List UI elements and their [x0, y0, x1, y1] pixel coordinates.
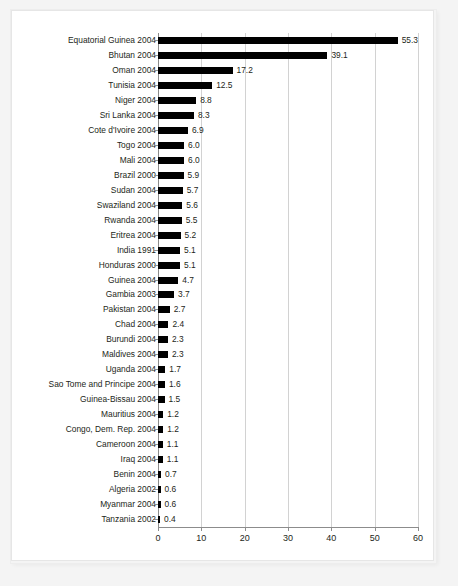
category-label: Sudan 2004: [0, 183, 156, 198]
x-axis-tick-label: 60: [403, 532, 433, 544]
bar[interactable]: [158, 456, 163, 463]
bar[interactable]: [158, 37, 398, 44]
bar-row[interactable]: Tanzania 20020.4: [0, 512, 458, 527]
bar-row[interactable]: Maldives 20042.3: [0, 347, 458, 362]
bar-value-label: 12.5: [216, 78, 232, 93]
x-tick-mark-20: [245, 527, 246, 531]
bar-value-label: 5.9: [188, 168, 200, 183]
bar[interactable]: [158, 336, 168, 343]
bar[interactable]: [158, 441, 163, 448]
bar-row[interactable]: Niger 20048.8: [0, 93, 458, 108]
category-label: Swaziland 2004: [0, 198, 156, 213]
bar-row[interactable]: Sri Lanka 20048.3: [0, 108, 458, 123]
bar[interactable]: [158, 157, 184, 164]
bar-value-label: 5.6: [186, 198, 198, 213]
bar[interactable]: [158, 97, 196, 104]
bar-value-label: 0.4: [164, 512, 176, 527]
bar-row[interactable]: Burundi 20042.3: [0, 332, 458, 347]
bar-row[interactable]: Mali 20046.0: [0, 153, 458, 168]
category-label: Maldives 2004: [0, 347, 156, 362]
bar[interactable]: [158, 351, 168, 358]
bar-row[interactable]: Sudan 20045.7: [0, 183, 458, 198]
bar-value-label: 6.0: [188, 138, 200, 153]
bar-value-label: 5.1: [184, 243, 196, 258]
bar[interactable]: [158, 142, 184, 149]
x-tick-mark-40: [331, 527, 332, 531]
figure-frame: 0102030405060Equatorial Guinea 200455.3B…: [0, 0, 458, 586]
bar[interactable]: [158, 471, 161, 478]
category-label: Equatorial Guinea 2004: [0, 33, 156, 48]
bar-row[interactable]: Iraq 20041.1: [0, 452, 458, 467]
bar-row[interactable]: Benin 20040.7: [0, 467, 458, 482]
bar[interactable]: [158, 232, 181, 239]
bar-row[interactable]: Rwanda 20045.5: [0, 213, 458, 228]
bar-row[interactable]: Brazil 20005.9: [0, 168, 458, 183]
bar-row[interactable]: Tunisia 200412.5: [0, 78, 458, 93]
bar-row[interactable]: Sao Tome and Principe 20041.6: [0, 377, 458, 392]
bar-row[interactable]: Oman 200417.2: [0, 63, 458, 78]
bar-value-label: 2.3: [172, 347, 184, 362]
bar[interactable]: [158, 112, 194, 119]
bar-row[interactable]: Equatorial Guinea 200455.3: [0, 33, 458, 48]
bar-row[interactable]: Algeria 20020.6: [0, 482, 458, 497]
bar[interactable]: [158, 426, 163, 433]
category-label: Chad 2004: [0, 317, 156, 332]
category-label: India 1991: [0, 243, 156, 258]
bar-row[interactable]: Honduras 20005.1: [0, 258, 458, 273]
x-axis-tick-label: 30: [273, 532, 303, 544]
bar-value-label: 1.5: [169, 392, 181, 407]
bar[interactable]: [158, 202, 182, 209]
bar-row[interactable]: Cote d'Ivoire 20046.9: [0, 123, 458, 138]
x-axis-tick-label: 0: [143, 532, 173, 544]
bar[interactable]: [158, 277, 178, 284]
bar[interactable]: [158, 172, 184, 179]
bar[interactable]: [158, 411, 163, 418]
bar[interactable]: [158, 217, 182, 224]
bar-row[interactable]: Togo 20046.0: [0, 138, 458, 153]
bar[interactable]: [158, 396, 165, 403]
x-axis-tick-label: 20: [230, 532, 260, 544]
bar-row[interactable]: India 19915.1: [0, 243, 458, 258]
bar[interactable]: [158, 486, 161, 493]
bar[interactable]: [158, 321, 168, 328]
bar[interactable]: [158, 291, 174, 298]
bar-row[interactable]: Gambia 20033.7: [0, 287, 458, 302]
bar-value-label: 6.0: [188, 153, 200, 168]
category-label: Pakistan 2004: [0, 302, 156, 317]
category-label: Honduras 2000: [0, 258, 156, 273]
bar[interactable]: [158, 187, 183, 194]
x-tick-mark-50: [375, 527, 376, 531]
bar-row[interactable]: Pakistan 20042.7: [0, 302, 458, 317]
bar-row[interactable]: Guinea 20044.7: [0, 273, 458, 288]
bar-value-label: 5.2: [185, 228, 197, 243]
bar[interactable]: [158, 501, 161, 508]
bar-value-label: 5.7: [187, 183, 199, 198]
category-label: Mali 2004: [0, 153, 156, 168]
category-label: Uganda 2004: [0, 362, 156, 377]
bar-row[interactable]: Uganda 20041.7: [0, 362, 458, 377]
bar-row[interactable]: Myanmar 20040.6: [0, 497, 458, 512]
bar-row[interactable]: Bhutan 200439.1: [0, 48, 458, 63]
bar[interactable]: [158, 82, 212, 89]
bar-row[interactable]: Eritrea 20045.2: [0, 228, 458, 243]
bar-row[interactable]: Congo, Dem. Rep. 20041.2: [0, 422, 458, 437]
category-label: Tunisia 2004: [0, 78, 156, 93]
bar[interactable]: [158, 306, 170, 313]
bar-row[interactable]: Guinea-Bissau 20041.5: [0, 392, 458, 407]
category-label: Sri Lanka 2004: [0, 108, 156, 123]
bar-row[interactable]: Chad 20042.4: [0, 317, 458, 332]
category-label: Benin 2004: [0, 467, 156, 482]
bar-value-label: 8.8: [200, 93, 212, 108]
category-label: Tanzania 2002: [0, 512, 156, 527]
bar[interactable]: [158, 516, 160, 523]
bar[interactable]: [158, 381, 165, 388]
bar[interactable]: [158, 262, 180, 269]
bar-row[interactable]: Swaziland 20045.6: [0, 198, 458, 213]
bar[interactable]: [158, 366, 165, 373]
bar-row[interactable]: Mauritius 20041.2: [0, 407, 458, 422]
bar-row[interactable]: Cameroon 20041.1: [0, 437, 458, 452]
bar[interactable]: [158, 52, 327, 59]
bar[interactable]: [158, 247, 180, 254]
bar[interactable]: [158, 127, 188, 134]
bar[interactable]: [158, 67, 233, 74]
